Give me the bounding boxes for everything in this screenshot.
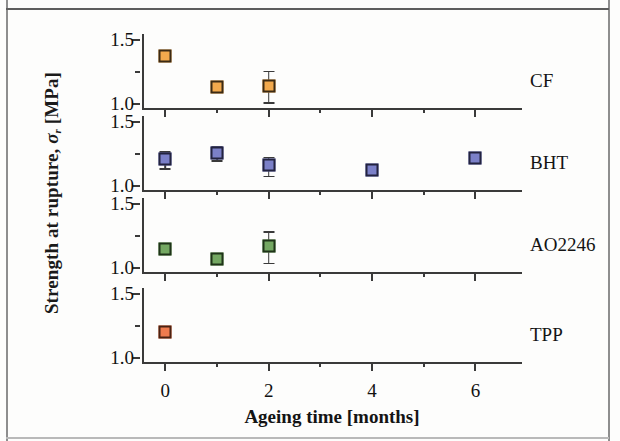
marker-cf <box>210 81 223 94</box>
x-tick <box>319 190 321 195</box>
x-tick <box>423 362 425 367</box>
marker-bht <box>262 159 275 172</box>
y-tick-label: 1.5 <box>88 112 134 131</box>
series-label-tpp: TPP <box>530 324 563 346</box>
figure-border-left <box>6 0 8 441</box>
x-tick <box>474 362 476 371</box>
y-tick-label-group: 1.01.5 <box>88 116 134 192</box>
y-tick-group <box>134 116 142 192</box>
x-tick <box>164 272 166 281</box>
y-tick <box>135 153 140 155</box>
x-axis-line <box>142 190 522 192</box>
y-axis-title-symbol: σ <box>41 133 62 143</box>
x-tick <box>216 108 218 113</box>
marker-bht <box>210 146 223 159</box>
x-tick <box>216 272 218 277</box>
y-tick-label: 1.0 <box>88 94 134 113</box>
figure-border-bottom <box>6 437 609 439</box>
y-tick <box>135 71 140 73</box>
figure: Strength at rupture, σr [MPa] 1.01.5CF1.… <box>0 0 620 441</box>
y-axis-line <box>142 198 144 274</box>
marker-ao2246 <box>262 240 275 253</box>
marker-cf <box>262 79 275 92</box>
x-tick <box>371 362 373 371</box>
y-tick-label-group: 1.01.5 <box>88 198 134 274</box>
marker-tpp <box>159 326 172 339</box>
marker-bht <box>366 164 379 177</box>
marker-bht <box>159 153 172 166</box>
y-tick-label: 1.5 <box>88 284 134 303</box>
x-tick <box>319 272 321 277</box>
marker-bht <box>469 151 482 164</box>
x-tick-label: 0 <box>145 380 185 402</box>
x-axis-line <box>142 272 522 274</box>
y-tick-label: 1.5 <box>88 194 134 213</box>
x-tick <box>268 272 270 281</box>
y-axis-line <box>142 288 144 364</box>
panel-ao2246: 1.01.5AO2246 <box>142 198 522 274</box>
x-tick <box>319 108 321 113</box>
error-bar-cap-lower <box>160 168 171 170</box>
error-bar-cap-upper <box>263 71 274 73</box>
x-tick <box>216 362 218 367</box>
x-axis-line <box>142 108 522 110</box>
y-axis-title-subscript: r <box>51 129 63 133</box>
x-tick <box>423 272 425 277</box>
error-bar-cap-lower <box>211 160 222 162</box>
y-tick <box>135 325 140 327</box>
x-axis-title: Ageing time [months] <box>142 406 522 428</box>
error-bar-cap-lower <box>263 263 274 265</box>
error-bar-cap-upper <box>263 157 274 159</box>
series-label-bht: BHT <box>530 152 568 174</box>
x-tick <box>474 272 476 281</box>
y-tick-label: 1.0 <box>88 348 134 367</box>
x-tick <box>164 362 166 371</box>
x-tick <box>268 362 270 371</box>
y-axis-title-units: [MPa] <box>41 72 62 124</box>
y-tick <box>135 235 140 237</box>
x-tick <box>216 190 218 195</box>
x-tick-label: 2 <box>249 380 289 402</box>
marker-cf <box>159 49 172 62</box>
error-bar-cap-lower <box>263 102 274 104</box>
error-bar-cap-upper <box>263 231 274 233</box>
y-tick-label: 1.0 <box>88 258 134 277</box>
y-tick-label-group: 1.01.5 <box>88 288 134 364</box>
y-tick-label: 1.5 <box>88 30 134 49</box>
y-tick-label-group: 1.01.5 <box>88 34 134 110</box>
y-tick-group <box>134 288 142 364</box>
x-axis-line <box>142 362 522 364</box>
panel-tpp: 1.01.5TPP <box>142 288 522 364</box>
x-tick <box>319 362 321 367</box>
y-tick-group <box>134 34 142 110</box>
y-tick-label: 1.0 <box>88 176 134 195</box>
marker-ao2246 <box>159 242 172 255</box>
error-bar-cap-lower <box>263 176 274 178</box>
x-tick <box>423 108 425 113</box>
x-tick <box>371 272 373 281</box>
y-axis-line <box>142 34 144 110</box>
y-tick-group <box>134 198 142 274</box>
y-axis-line <box>142 116 144 192</box>
figure-border-top <box>6 8 609 10</box>
figure-border-right <box>608 0 610 441</box>
y-axis-title-main: Strength at rupture, <box>41 149 62 314</box>
y-axis-title: Strength at rupture, σr [MPa] <box>41 13 63 373</box>
panel-cf: 1.01.5CF <box>142 34 522 110</box>
series-label-ao2246: AO2246 <box>530 234 595 256</box>
marker-ao2246 <box>210 252 223 265</box>
x-tick-label: 6 <box>455 380 495 402</box>
x-tick <box>423 190 425 195</box>
x-tick-label: 4 <box>352 380 392 402</box>
series-label-cf: CF <box>530 70 553 92</box>
panel-bht: 1.01.5BHT <box>142 116 522 192</box>
